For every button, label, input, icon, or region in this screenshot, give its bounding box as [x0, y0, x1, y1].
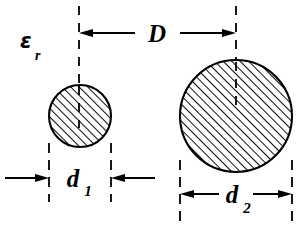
- label-small-diameter-d: d: [67, 165, 80, 192]
- label-permittivity-epsilon: ε: [20, 29, 32, 53]
- dimension-diagram-canvas: D d 1 d 2 ε r: [0, 0, 308, 229]
- label-permittivity-subscript: r: [35, 48, 41, 63]
- label-large-diameter-subscript: 2: [242, 200, 251, 216]
- label-separation-D: D: [147, 20, 166, 47]
- label-small-diameter-subscript: 1: [84, 183, 92, 199]
- diagram-svg: D d 1 d 2 ε r: [0, 0, 308, 229]
- label-large-diameter-d: d: [226, 181, 239, 208]
